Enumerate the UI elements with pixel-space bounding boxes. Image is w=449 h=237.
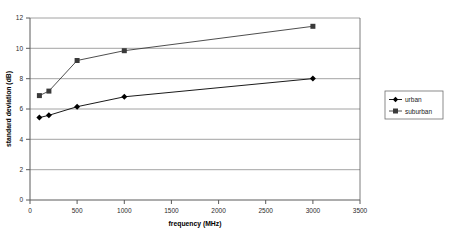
legend-marker-suburban-icon xyxy=(393,109,398,114)
y-tick-label: 12 xyxy=(16,14,24,21)
gridlines xyxy=(30,18,360,170)
data-point-urban xyxy=(36,115,42,121)
x-tick-label: 3000 xyxy=(306,207,321,214)
data-point-suburban xyxy=(46,89,51,94)
y-tick-label: 10 xyxy=(16,45,24,52)
y-tick-label: 6 xyxy=(19,105,23,112)
y-tick-label: 8 xyxy=(19,75,23,82)
y-axis-title: standard deviation (dB) xyxy=(5,71,13,147)
y-tick-label: 4 xyxy=(19,136,23,143)
data-point-suburban xyxy=(37,93,42,98)
y-axis-tick-labels: 12 10 8 6 4 2 0 xyxy=(16,14,24,203)
x-tick-label: 3500 xyxy=(353,207,368,214)
series-urban xyxy=(36,76,316,121)
chart-container: 12 10 8 6 4 2 0 0 500 1000 1500 2000 250 xyxy=(0,0,449,237)
y-axis-ticks xyxy=(26,18,30,200)
x-axis-title: frequency (MHz) xyxy=(169,220,222,228)
data-point-suburban xyxy=(122,48,127,53)
legend: urban suburban xyxy=(385,91,443,119)
data-point-urban xyxy=(121,94,127,100)
x-axis-tick-labels: 0 500 1000 1500 2000 2500 3000 3500 xyxy=(28,207,367,214)
data-point-urban xyxy=(310,76,316,82)
data-point-urban xyxy=(46,112,52,118)
x-tick-label: 500 xyxy=(72,207,83,214)
x-tick-label: 1500 xyxy=(164,207,179,214)
data-point-suburban xyxy=(310,24,315,29)
series-suburban xyxy=(37,24,316,98)
legend-item-suburban[interactable]: suburban xyxy=(389,108,432,115)
x-tick-label: 0 xyxy=(28,207,32,214)
x-tick-label: 2500 xyxy=(258,207,273,214)
line-chart: 12 10 8 6 4 2 0 0 500 1000 1500 2000 250 xyxy=(0,0,449,237)
data-point-suburban xyxy=(75,58,80,63)
x-axis-ticks xyxy=(30,200,360,204)
x-tick-label: 2000 xyxy=(211,207,226,214)
legend-label-suburban: suburban xyxy=(405,108,432,115)
x-tick-label: 1000 xyxy=(117,207,132,214)
y-tick-label: 0 xyxy=(19,196,23,203)
y-tick-label: 2 xyxy=(19,166,23,173)
legend-label-urban: urban xyxy=(405,96,422,103)
